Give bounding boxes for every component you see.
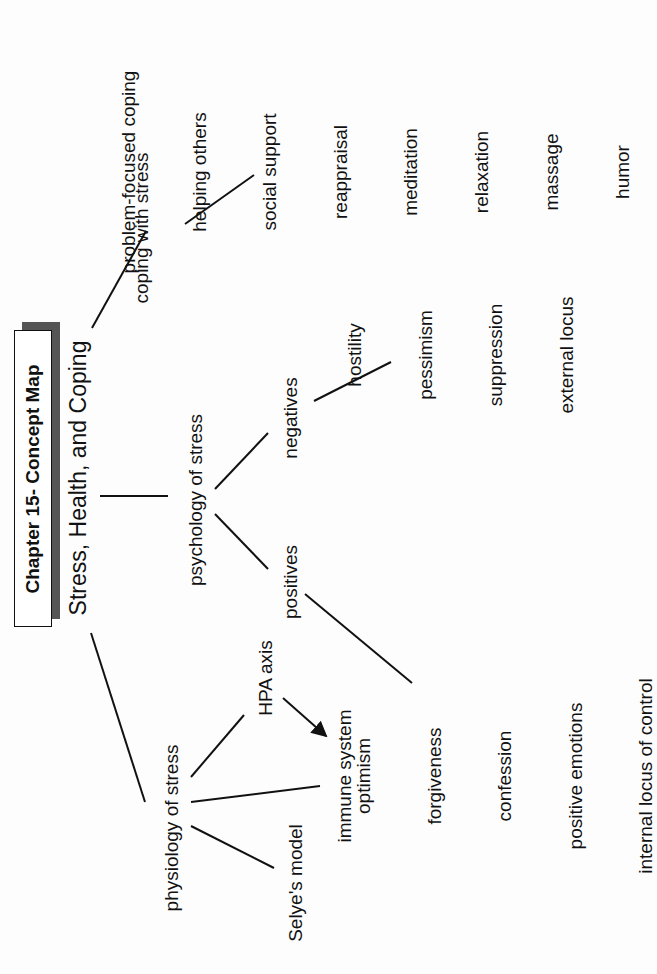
- list-item: pessimism: [414, 296, 438, 413]
- list-item: positive emotions: [564, 678, 588, 873]
- list-item: suppression: [484, 296, 508, 413]
- coping-strategies-list: problem-focused coping helping others so…: [70, 71, 657, 274]
- line-physiology-to-selye: [191, 826, 274, 868]
- list-item: social support: [258, 71, 282, 274]
- list-item: hostility: [343, 296, 367, 413]
- line-psych-to-negatives: [215, 433, 268, 489]
- line-title-to-physiology: [91, 633, 145, 802]
- node-immune-system: immune system: [333, 709, 357, 842]
- list-item: reappraisal: [329, 71, 353, 274]
- list-item: meditation: [399, 71, 423, 274]
- main-topic: Stress, Health, and Coping: [65, 341, 91, 616]
- node-physiology-of-stress: physiology of stress: [160, 745, 184, 912]
- list-item: relaxation: [470, 71, 494, 274]
- chapter-title: Chapter 15- Concept Map: [22, 364, 44, 593]
- list-item: humor: [611, 71, 635, 274]
- node-positives: positives: [279, 545, 303, 619]
- node-psychology-of-stress: psychology of stress: [184, 414, 208, 586]
- line-physiology-to-immune: [191, 786, 320, 802]
- line-positives-to-list: [305, 594, 412, 683]
- node-selyes-model: Selye's model: [284, 824, 308, 942]
- list-item: massage: [540, 71, 564, 274]
- list-item: external locus: [555, 296, 579, 413]
- list-item: forgiveness: [423, 678, 447, 873]
- chapter-title-box: Chapter 15- Concept Map: [14, 330, 52, 627]
- negatives-list: hostility pessimism suppression external…: [296, 296, 602, 413]
- list-item: confession: [493, 678, 517, 873]
- node-hpa-axis: HPA axis: [254, 640, 278, 716]
- line-psych-to-positives: [215, 514, 268, 569]
- line-physiology-to-hpa: [191, 715, 244, 777]
- list-item: helping others: [188, 71, 212, 274]
- positives-list: optimism forgiveness confession positive…: [305, 678, 657, 873]
- list-item: internal locus of control: [634, 678, 657, 873]
- list-item: problem-focused coping: [117, 71, 141, 274]
